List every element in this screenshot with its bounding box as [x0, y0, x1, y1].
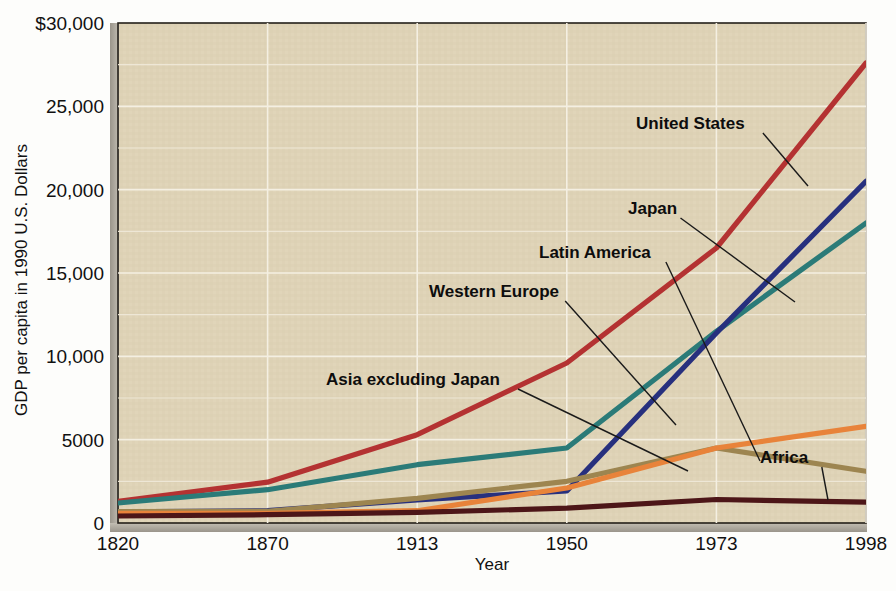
y-tick-label: 20,000 [46, 180, 104, 201]
series-label-africa: Africa [760, 448, 809, 467]
x-tick-label: 1870 [246, 533, 288, 554]
y-tick-label: 15,000 [46, 263, 104, 284]
series-label-latin-america: Latin America [539, 243, 651, 262]
series-label-japan: Japan [628, 199, 677, 218]
y-tick-label: 25,000 [46, 96, 104, 117]
series-label-western-europe: Western Europe [429, 282, 559, 301]
x-tick-label: 1973 [695, 533, 737, 554]
series-label-united-states: United States [636, 114, 745, 133]
x-tick-label: 1950 [546, 533, 588, 554]
x-tick-label: 1998 [845, 533, 887, 554]
gdp-per-capita-line-chart: United StatesJapanLatin AmericaWestern E… [0, 0, 896, 591]
x-tick-label: 1820 [97, 533, 139, 554]
y-tick-label: 10,000 [46, 346, 104, 367]
y-tick-label: $30,000 [35, 13, 104, 34]
x-axis-title: Year [475, 555, 510, 574]
y-axis-tick-labels: 0500010,00015,00020,00025,000$30,000 [35, 13, 104, 534]
y-tick-label: 0 [93, 513, 104, 534]
x-axis-tick-labels: 182018701913195019731998 [97, 533, 887, 554]
x-tick-label: 1913 [396, 533, 438, 554]
series-label-asia-excluding-japan: Asia excluding Japan [326, 370, 500, 389]
y-tick-label: 5000 [62, 430, 104, 451]
y-axis-title: GDP per capita in 1990 U.S. Dollars [12, 144, 31, 416]
chart-figure: United StatesJapanLatin AmericaWestern E… [0, 0, 896, 591]
